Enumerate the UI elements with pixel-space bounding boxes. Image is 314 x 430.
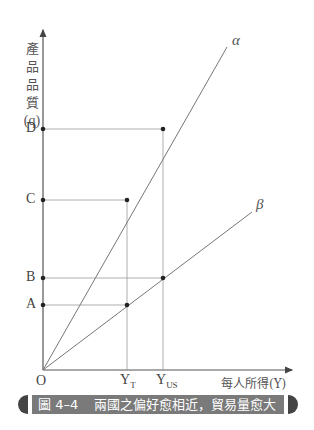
origin-label: O [36,373,46,389]
caption-bar: 圖 4–4兩國之偏好愈相近，貿易量愈大 [32,395,284,414]
beta-label: β [256,196,263,213]
alpha-line [43,47,227,370]
figure-caption: 圖 4–4兩國之偏好愈相近，貿易量愈大 [18,395,298,414]
caption-right-cap [288,395,298,414]
tick-c: C [26,191,35,207]
tick-a: A [26,296,36,312]
x-axis-label: 每人所得(Y) [221,374,286,391]
tick-y-t: YT [120,372,136,390]
data-points [41,127,166,308]
caption-number: 圖 4–4 [38,395,78,414]
caption-left-cap [18,395,28,414]
beta-line [43,212,252,370]
alpha-label: α [232,32,240,49]
guide-lines [43,129,163,370]
tick-b: B [26,269,35,285]
tick-y-us: YUS [156,372,178,390]
y-axis-label: 產 品 品 質 (q) [22,40,42,130]
tick-d: D [26,120,36,136]
quality-income-diagram [0,0,314,430]
caption-text: 兩國之偏好愈相近，貿易量愈大 [94,397,276,412]
